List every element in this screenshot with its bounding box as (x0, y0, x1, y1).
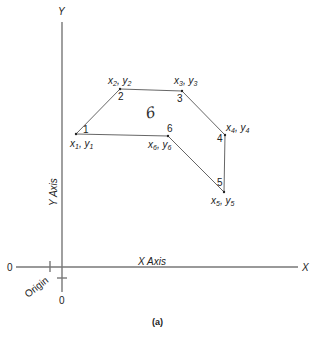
vertex-5-dot (223, 191, 225, 193)
y-zero-label: 0 (59, 295, 65, 306)
vertex-3-dot (181, 90, 183, 92)
vertex-2-dot (119, 88, 121, 90)
vertex-6-index: 6 (167, 123, 173, 134)
vertex-4-dot (224, 134, 226, 136)
side-count-handwritten: 6 (144, 103, 158, 123)
coordinate-diagram: Y Y Axis X X Axis 0 0 Origin 1 x1, y1 2 … (0, 0, 318, 340)
vertex-2-index: 2 (118, 91, 124, 102)
x-zero-label: 0 (7, 262, 13, 273)
vertex-5-index: 5 (217, 177, 223, 188)
vertex-4-index: 4 (217, 133, 223, 144)
vertex-6-dot (167, 135, 169, 137)
vertex-1-index: 1 (83, 124, 89, 135)
y-axis-end-label: Y (58, 6, 66, 17)
y-axis-title: Y Axis (48, 178, 59, 206)
vertex-1-dot (75, 133, 77, 135)
vertex-3-coords: x3, y3 (173, 75, 197, 87)
vertex-3-index: 3 (177, 93, 183, 104)
vertex-6-coords: x6, y6 (147, 139, 171, 151)
x-axis-title: X Axis (137, 256, 166, 267)
origin-label: Origin (22, 274, 50, 299)
figure-caption: (a) (152, 317, 163, 327)
vertex-5-coords: x5, y5 (210, 195, 234, 207)
x-axis-end-label: X (301, 262, 309, 273)
vertex-4-coords: x4, y4 (225, 122, 249, 134)
vertex-1-coords: x1, y1 (69, 138, 93, 150)
vertex-2-coords: x2, y2 (107, 75, 131, 87)
